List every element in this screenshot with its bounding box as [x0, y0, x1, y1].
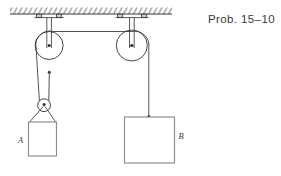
block-a-label: A — [17, 135, 24, 145]
block-a-body — [29, 122, 57, 156]
rope-right-rise — [49, 73, 50, 102]
rope-anchor-bead — [48, 71, 51, 74]
movable-sheave-axle — [43, 103, 46, 106]
left-sheave-axle — [48, 44, 51, 47]
block-b-body — [125, 117, 175, 163]
pulley-system-diagram: A B — [0, 0, 281, 176]
left-bracket-foot-outer — [57, 14, 62, 17]
hatch-marks — [10, 8, 172, 15]
block-b — [125, 117, 175, 163]
ceiling-support — [10, 8, 172, 15]
sling-left-leg — [30, 106, 44, 122]
right-sheave-axle — [130, 44, 133, 47]
block-a — [29, 122, 57, 156]
right-bracket-foot-inner — [118, 14, 123, 17]
sling-right-leg — [45, 106, 56, 122]
block-b-label: B — [178, 131, 183, 141]
right-bracket-foot-outer — [142, 14, 147, 17]
fixed-pulley-left — [35, 32, 63, 60]
problem-caption: Prob. 15–10 — [208, 13, 275, 25]
movable-pulley — [30, 99, 56, 122]
left-bracket-foot-inner — [37, 14, 42, 17]
figure-canvas: A B Prob. 15–10 — [0, 0, 281, 176]
fixed-pulley-right — [116, 30, 147, 61]
